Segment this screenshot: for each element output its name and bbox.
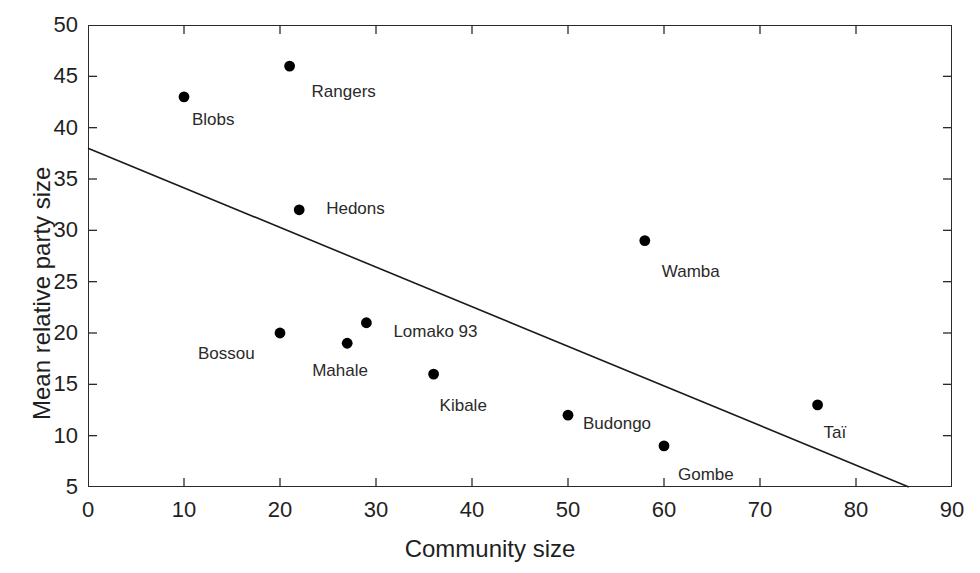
x-tick-label-70: 70 bbox=[737, 499, 783, 521]
point-label-ta-: Taï bbox=[824, 424, 847, 441]
point-label-lomako-93: Lomako 93 bbox=[393, 323, 477, 340]
x-tick-label-60: 60 bbox=[641, 499, 687, 521]
y-axis-title: Mean relative party size bbox=[28, 167, 56, 420]
x-tick-label-80: 80 bbox=[833, 499, 879, 521]
x-tick-label-10: 10 bbox=[161, 499, 207, 521]
point-label-kibale: Kibale bbox=[440, 397, 487, 414]
y-tick-label-5: 5 bbox=[32, 476, 78, 498]
scatter-plot-figure: 5101520253035404550 0102030405060708090 … bbox=[0, 0, 980, 573]
x-tick-label-0: 0 bbox=[65, 499, 111, 521]
point-label-hedons: Hedons bbox=[326, 200, 385, 217]
x-tick-label-50: 50 bbox=[545, 499, 591, 521]
y-tick-label-10: 10 bbox=[32, 425, 78, 447]
x-axis-title: Community size bbox=[0, 535, 980, 563]
point-label-gombe: Gombe bbox=[678, 466, 734, 483]
y-tick-label-50: 50 bbox=[32, 14, 78, 36]
y-tick-label-45: 45 bbox=[32, 65, 78, 87]
point-label-mahale: Mahale bbox=[312, 362, 368, 379]
x-tick-label-30: 30 bbox=[353, 499, 399, 521]
x-tick-label-40: 40 bbox=[449, 499, 495, 521]
point-label-blobs: Blobs bbox=[192, 111, 235, 128]
point-label-rangers: Rangers bbox=[312, 83, 376, 100]
x-tick-label-90: 90 bbox=[929, 499, 975, 521]
point-label-wamba: Wamba bbox=[662, 263, 720, 280]
x-tick-label-20: 20 bbox=[257, 499, 303, 521]
y-tick-label-40: 40 bbox=[32, 117, 78, 139]
point-label-budongo: Budongo bbox=[583, 415, 651, 432]
plot-area bbox=[88, 25, 952, 487]
point-label-bossou: Bossou bbox=[198, 345, 255, 362]
